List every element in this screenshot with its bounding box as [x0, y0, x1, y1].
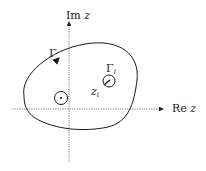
gamma-label: Γ: [49, 48, 57, 59]
gamma-i-subscript: i: [114, 68, 116, 76]
re-var: z: [190, 102, 196, 115]
imaginary-axis-label: Im z: [66, 10, 90, 21]
re-prefix: Re: [172, 102, 187, 115]
diagram-canvas: [0, 0, 206, 171]
real-axis-label: Re z: [172, 103, 196, 114]
gamma-i-label: Γi: [106, 63, 116, 76]
im-var: z: [84, 9, 90, 22]
outer-contour-gamma: [24, 43, 138, 130]
im-prefix: Im: [66, 9, 81, 22]
gamma-i-symbol: Γ: [106, 62, 114, 75]
zi-subscript: i: [97, 91, 99, 99]
pole-zi-pointer: [104, 80, 110, 85]
zi-label: zi: [91, 86, 99, 99]
complex-plane-diagram: Im z Re z Γ Γi zi: [0, 0, 206, 171]
gamma-symbol: Γ: [49, 47, 57, 60]
second-pole-point: [60, 97, 62, 99]
